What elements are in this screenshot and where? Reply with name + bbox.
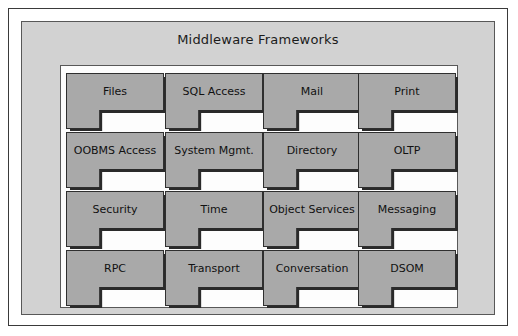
block-label: Directory — [264, 133, 360, 169]
block-label: System Mgmt. — [166, 133, 262, 169]
block-label: Conversation — [264, 251, 360, 287]
framework-block[interactable]: DSOM — [359, 251, 455, 305]
framework-block[interactable]: Transport — [166, 251, 262, 305]
block-label: Files — [67, 74, 163, 110]
block-label: Messaging — [359, 192, 455, 228]
block-label: DSOM — [359, 251, 455, 287]
framework-block[interactable]: Messaging — [359, 192, 455, 246]
framework-block[interactable]: Conversation — [264, 251, 360, 305]
framework-block[interactable]: Mail — [264, 74, 360, 128]
framework-block[interactable]: Time — [166, 192, 262, 246]
framework-block[interactable]: Files — [67, 74, 163, 128]
block-label: SQL Access — [166, 74, 262, 110]
frameworks-grid-panel: Files SQL Access Mail — [60, 65, 458, 308]
diagram-outer-frame: Middleware Frameworks Files SQL Access — [8, 8, 508, 326]
block-label: OOBMS Access — [67, 133, 163, 169]
framework-block[interactable]: Directory — [264, 133, 360, 187]
framework-block[interactable]: Print — [359, 74, 455, 128]
framework-block[interactable]: Security — [67, 192, 163, 246]
block-label: Time — [166, 192, 262, 228]
block-label: RPC — [67, 251, 163, 287]
framework-block[interactable]: System Mgmt. — [166, 133, 262, 187]
framework-block[interactable]: Object Services — [264, 192, 360, 246]
block-label: Transport — [166, 251, 262, 287]
framework-block[interactable]: SQL Access — [166, 74, 262, 128]
framework-block-grid: Files SQL Access Mail — [67, 71, 453, 304]
block-label: OLTP — [359, 133, 455, 169]
framework-block[interactable]: RPC — [67, 251, 163, 305]
block-label: Print — [359, 74, 455, 110]
page-title: Middleware Frameworks — [22, 32, 494, 47]
framework-block[interactable]: OLTP — [359, 133, 455, 187]
middleware-frameworks-panel: Middleware Frameworks Files SQL Access — [21, 21, 495, 315]
block-label: Mail — [264, 74, 360, 110]
framework-block[interactable]: OOBMS Access — [67, 133, 163, 187]
block-label: Security — [67, 192, 163, 228]
block-label: Object Services — [264, 192, 360, 228]
